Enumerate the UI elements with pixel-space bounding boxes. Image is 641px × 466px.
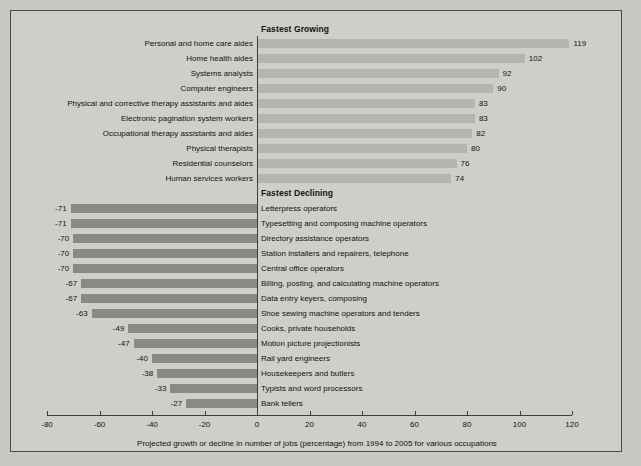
category-label: Housekeepers and butlers <box>261 368 354 379</box>
bar-row: Bank tellers-27 <box>11 396 623 411</box>
bar <box>257 129 472 138</box>
bar-row: Data entry keyers, composing-67 <box>11 291 623 306</box>
fastest-growing-header: Fastest Growing <box>261 24 329 34</box>
bar-row: Residential counselors76 <box>11 156 623 171</box>
x-axis-tick-label: -80 <box>27 420 67 429</box>
x-axis-tick-label: 0 <box>237 420 277 429</box>
value-label: 90 <box>497 83 506 94</box>
value-label: -38 <box>138 368 153 379</box>
bar-row: Physical therapists80 <box>11 141 623 156</box>
bar <box>257 114 475 123</box>
x-axis-tick-label: 100 <box>500 420 540 429</box>
zero-axis-divider <box>257 36 258 411</box>
category-label: Letterpress operators <box>261 203 337 214</box>
bar <box>257 39 569 48</box>
x-axis-tick <box>257 411 258 415</box>
x-axis-tick-label: -20 <box>185 420 225 429</box>
bar-row: Letterpress operators-71 <box>11 201 623 216</box>
category-label: Physical therapists <box>11 143 253 154</box>
x-axis-tick <box>467 411 468 415</box>
bar <box>257 144 467 153</box>
value-label: -27 <box>167 398 182 409</box>
bar <box>92 309 257 318</box>
value-label: 83 <box>479 113 488 124</box>
bar <box>81 279 257 288</box>
bar-row: Rail yard engineers-40 <box>11 351 623 366</box>
value-label: 83 <box>479 98 488 109</box>
category-label: Human services workers <box>11 173 253 184</box>
x-axis-tick-label: -60 <box>80 420 120 429</box>
bar-row: Station installers and repairers, teleph… <box>11 246 623 261</box>
x-axis-tick <box>362 411 363 415</box>
category-label: Electronic pagination system workers <box>11 113 253 124</box>
category-label: Bank tellers <box>261 398 303 409</box>
value-label: -67 <box>62 293 77 304</box>
category-label: Physical and corrective therapy assistan… <box>11 98 253 109</box>
bar-row: Directory assistance operators-70 <box>11 231 623 246</box>
value-label: -70 <box>54 233 69 244</box>
bar <box>170 384 257 393</box>
bar-row: Shoe sewing machine operators and tender… <box>11 306 623 321</box>
category-label: Directory assistance operators <box>261 233 369 244</box>
value-label: 74 <box>455 173 464 184</box>
bar-row: Computer engineers90 <box>11 81 623 96</box>
value-label: -67 <box>62 278 77 289</box>
category-label: Typists and word processors <box>261 383 362 394</box>
bar <box>257 159 457 168</box>
value-label: -70 <box>54 248 69 259</box>
value-label: -71 <box>52 203 67 214</box>
bar <box>73 249 257 258</box>
category-label: Residential counselors <box>11 158 253 169</box>
x-axis-tick <box>205 411 206 415</box>
bar-row: Motion picture projectionists-47 <box>11 336 623 351</box>
value-label: 119 <box>573 38 586 49</box>
bar <box>71 204 257 213</box>
bar-row: Personal and home care aides119 <box>11 36 623 51</box>
x-axis-tick-label: -40 <box>132 420 172 429</box>
value-label: -47 <box>115 338 130 349</box>
category-label: Typesetting and composing machine operat… <box>261 218 427 229</box>
bar-row: Typists and word processors-33 <box>11 381 623 396</box>
value-label: -49 <box>109 323 124 334</box>
x-axis-tick-label: 20 <box>290 420 330 429</box>
category-label: Data entry keyers, composing <box>261 293 367 304</box>
x-axis-tick-label: 40 <box>342 420 382 429</box>
x-axis-tick <box>520 411 521 415</box>
bar-row: Housekeepers and butlers-38 <box>11 366 623 381</box>
value-label: 80 <box>471 143 480 154</box>
x-axis-tick <box>415 411 416 415</box>
fastest-declining-header: Fastest Declining <box>261 188 333 198</box>
x-axis-tick <box>152 411 153 415</box>
value-label: 92 <box>503 68 512 79</box>
bar-row: Billing, posting, and calculating machin… <box>11 276 623 291</box>
bar-row: Systems analysts92 <box>11 66 623 81</box>
bar <box>152 354 257 363</box>
value-label: -63 <box>73 308 88 319</box>
category-label: Home health aides <box>11 53 253 64</box>
bar-row: Home health aides102 <box>11 51 623 66</box>
axis-caption: Projected growth or decline in number of… <box>11 439 623 448</box>
x-axis-line <box>47 415 572 416</box>
bar <box>257 174 451 183</box>
x-axis-tick-label: 80 <box>447 420 487 429</box>
bar <box>71 219 257 228</box>
bar <box>157 369 257 378</box>
category-label: Occupational therapy assistants and aide… <box>11 128 253 139</box>
category-label: Systems analysts <box>11 68 253 79</box>
figure-frame: Fastest Growing Fastest Declining Person… <box>10 10 622 452</box>
category-label: Personal and home care aides <box>11 38 253 49</box>
chart-plot-area: Fastest Growing Fastest Declining Person… <box>11 11 623 453</box>
bar <box>81 294 257 303</box>
value-label: 76 <box>461 158 470 169</box>
x-axis-tick-label: 60 <box>395 420 435 429</box>
category-label: Rail yard engineers <box>261 353 330 364</box>
bar <box>257 54 525 63</box>
bar-row: Central office operators-70 <box>11 261 623 276</box>
value-label: -71 <box>52 218 67 229</box>
bar <box>257 69 499 78</box>
category-label: Motion picture projectionists <box>261 338 360 349</box>
bar <box>128 324 257 333</box>
bar-row: Occupational therapy assistants and aide… <box>11 126 623 141</box>
bar-row: Physical and corrective therapy assistan… <box>11 96 623 111</box>
bar <box>186 399 257 408</box>
